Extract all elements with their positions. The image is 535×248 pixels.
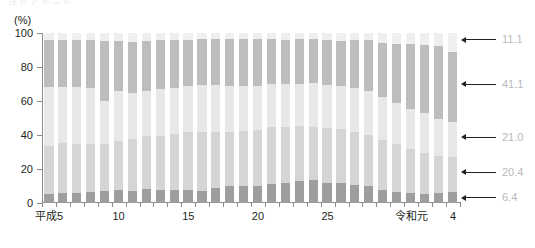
- bar-segment-3: [336, 86, 345, 129]
- x-axis-tick-mark: [418, 203, 419, 207]
- bar-11: [128, 33, 137, 203]
- annotation-leader-line: [466, 197, 496, 198]
- x-axis-tick-mark: [223, 203, 224, 207]
- bar-segment-2: [142, 136, 151, 189]
- bar-segment-3: [350, 88, 359, 131]
- annotation-value: 41.1: [502, 79, 523, 90]
- bar-segment-5: [86, 33, 95, 40]
- x-axis-tick-mark: [209, 203, 210, 207]
- bar-segment-1: [128, 191, 137, 203]
- y-axis-unit-label: (%): [14, 14, 31, 26]
- bar-segment-2: [434, 156, 443, 193]
- bar-segment-1: [364, 186, 373, 203]
- bar-segment-2: [128, 139, 137, 191]
- bar-segment-1: [142, 189, 151, 203]
- bar-segment-4: [156, 40, 165, 89]
- annotation-value: 21.0: [502, 132, 523, 143]
- bar-12: [142, 33, 151, 203]
- bar-segment-3: [72, 87, 81, 144]
- bar-segment-2: [239, 131, 248, 185]
- bar-segment-2: [253, 130, 262, 186]
- bar-segment-2: [309, 127, 318, 181]
- bar-segment-3: [295, 84, 304, 127]
- bar-segment-4: [225, 39, 234, 86]
- bar-segment-3: [267, 84, 276, 127]
- bar-7: [72, 33, 81, 203]
- x-axis-label: 15: [182, 210, 194, 223]
- bar-14: [170, 33, 179, 203]
- bar-segment-1: [281, 183, 290, 203]
- bar-segment-2: [364, 135, 373, 187]
- bar-segment-3: [253, 86, 262, 130]
- x-axis-tick-mark: [446, 203, 447, 207]
- bar-segment-5: [350, 33, 359, 40]
- annotation-leader-line: [466, 137, 496, 138]
- bar-27: [350, 33, 359, 203]
- bar-segment-1: [225, 186, 234, 203]
- bar-segment-3: [364, 91, 373, 134]
- bar-segment-5: [128, 33, 137, 42]
- bar-28: [364, 33, 373, 203]
- x-axis-tick-mark: [293, 203, 294, 207]
- bar-segment-5: [183, 33, 192, 40]
- annotation-arrow-icon: [461, 37, 466, 43]
- x-axis-tick-mark: [265, 203, 266, 207]
- x-axis-tick-mark: [460, 203, 461, 207]
- bar-segment-3: [322, 85, 331, 128]
- bar-segment-2: [86, 144, 95, 192]
- bar-segment-4: [434, 46, 443, 118]
- bar-segment-5: [378, 33, 387, 43]
- bar-segment-3: [44, 87, 53, 146]
- y-axis-tick-label: 100: [5, 28, 33, 39]
- bar-segment-4: [253, 39, 262, 86]
- annotation-20-4: 20.4: [461, 166, 523, 178]
- bar-segment-5: [114, 33, 123, 41]
- bar-segment-3: [86, 88, 95, 144]
- x-axis-tick-mark: [321, 203, 322, 207]
- bar-segment-5: [322, 33, 331, 40]
- x-axis-tick-mark: [376, 203, 377, 207]
- bar-segment-4: [239, 39, 248, 86]
- bar-segment-2: [183, 132, 192, 190]
- bar-6: [58, 33, 67, 203]
- annotation-6-4: 6.4: [461, 192, 517, 204]
- bar-segment-1: [322, 183, 331, 203]
- bar-segment-5: [406, 33, 415, 44]
- bar-segment-2: [100, 144, 109, 192]
- x-axis-tick-mark: [432, 203, 433, 207]
- x-axis-tick-mark: [167, 203, 168, 207]
- x-axis-tick-mark: [195, 203, 196, 207]
- bar-segment-5: [100, 33, 109, 41]
- bar-segment-1: [44, 194, 53, 203]
- bar-segment-4: [406, 44, 415, 109]
- annotation-value: 11.1: [502, 34, 523, 45]
- bar-25: [322, 33, 331, 203]
- bar-segment-5: [364, 33, 373, 40]
- bar-segment-3: [392, 103, 401, 145]
- bar-平成5: [44, 33, 53, 203]
- bar-segment-3: [420, 113, 429, 153]
- x-axis-tick-mark: [237, 203, 238, 207]
- x-axis-tick-mark: [404, 203, 405, 207]
- bar-令和元: [406, 33, 415, 203]
- y-axis-tick-label: 0: [5, 198, 33, 209]
- bar-segment-4: [364, 40, 373, 91]
- x-axis-tick-mark: [153, 203, 154, 207]
- bar-segment-4: [128, 42, 137, 93]
- bar-segment-5: [72, 33, 81, 40]
- stacked-bar-chart: はなくなった (%) 100806040200 平成510152025令和元4 …: [0, 0, 535, 248]
- bar-segment-1: [114, 190, 123, 203]
- bar-segment-4: [100, 41, 109, 101]
- annotation-21-0: 21.0: [461, 131, 523, 143]
- bar-16: [197, 33, 206, 203]
- bar-segment-2: [211, 132, 220, 188]
- cropped-header-artifact: はなくなった: [8, 0, 128, 5]
- bar-9: [100, 33, 109, 203]
- y-axis-tick-label: 80: [5, 62, 33, 73]
- bar-series-container: [42, 33, 460, 203]
- annotation-leader-line: [466, 172, 496, 173]
- annotation-value: 6.4: [502, 192, 517, 203]
- bar-segment-2: [336, 129, 345, 183]
- bar-segment-3: [170, 88, 179, 134]
- bar-segment-2: [392, 144, 401, 192]
